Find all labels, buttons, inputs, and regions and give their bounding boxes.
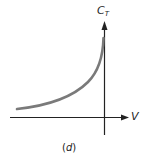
- capacitance-voltage-diagram: [0, 0, 146, 164]
- x-axis-label: V: [131, 110, 139, 123]
- y-axis-label: CT: [97, 4, 109, 18]
- figure-caption: (d): [62, 142, 76, 153]
- x-axis-arrow-icon: [121, 115, 129, 121]
- capacitance-curve: [17, 38, 104, 109]
- y-axis-arrow-icon: [102, 21, 108, 30]
